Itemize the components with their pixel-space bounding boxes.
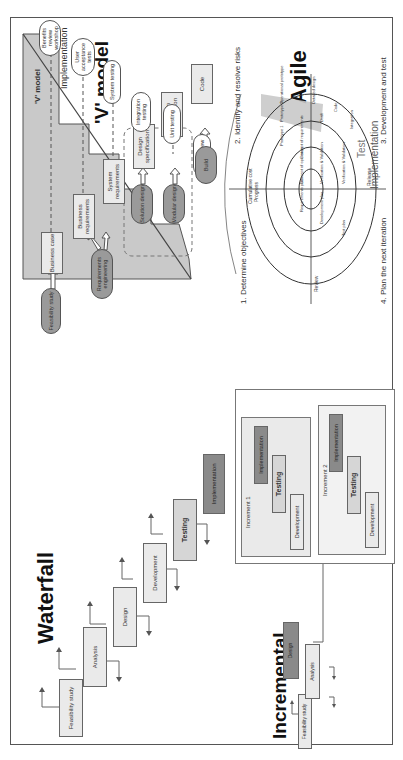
diagram-canvas: Waterfall Feasibility study Analysis Des… bbox=[0, 0, 403, 760]
diagram-frame: Waterfall Feasibility study Analysis Des… bbox=[10, 17, 393, 745]
agile-label-code: Code bbox=[333, 102, 338, 112]
agile-test-label: Test bbox=[356, 140, 367, 158]
agile-implementation-label: Implementation bbox=[369, 121, 380, 189]
agile-label-concept-requirements: Concept of requirements bbox=[299, 115, 304, 159]
agile-label-development-plan: Development plan bbox=[319, 192, 324, 224]
agile-quadrant-1: 1. Determine objectives bbox=[239, 220, 248, 304]
agile-spiral bbox=[11, 16, 394, 744]
agile-label-vv-1: Verification & Validation bbox=[319, 142, 324, 184]
agile-label-draft: Draft bbox=[319, 113, 324, 122]
agile-axis-progress: Progress bbox=[253, 182, 259, 202]
agile-label-prototype-2: Prototype 2 bbox=[279, 102, 284, 122]
agile-quadrant-3: 3. Development and test bbox=[379, 57, 388, 144]
agile-axis-review: Review bbox=[313, 276, 319, 292]
agile-label-integration: Integration bbox=[349, 110, 354, 129]
agile-label-vv-2: Verification & Validation bbox=[341, 142, 346, 184]
agile-label-prototype-1: Prototype 1 bbox=[279, 126, 284, 146]
agile-quadrant-4: 4. Plan the next iteration bbox=[379, 218, 388, 304]
agile-label-operational-prototype: Operational prototype bbox=[279, 66, 284, 104]
agile-label-test-plan: Test plan bbox=[341, 220, 346, 236]
agile-label-detailed-design: Detailed design bbox=[311, 76, 316, 104]
agile-quadrant-2: 2. Identify and resolve risks bbox=[233, 47, 242, 144]
